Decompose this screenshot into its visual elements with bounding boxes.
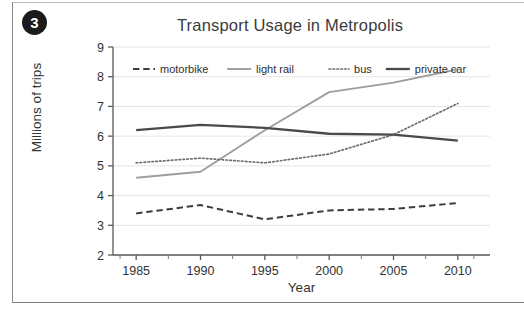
x-axis-tick-label: 1985: [122, 264, 150, 278]
y-axis-tick-label: 5: [97, 159, 104, 173]
series-line-motorbike: [136, 203, 458, 219]
x-axis-tick-label: 2000: [315, 264, 343, 278]
y-axis-tick-label: 2: [97, 249, 104, 263]
x-axis-tick-label: 1990: [187, 264, 215, 278]
series-line-light-rail: [136, 69, 458, 177]
series-line-bus: [136, 103, 458, 162]
y-axis-tick-label: 7: [97, 100, 104, 114]
y-axis-tick-label: 6: [97, 130, 104, 144]
legend-label-private-car: private car: [415, 63, 467, 75]
x-axis-tick-label: 1995: [251, 264, 279, 278]
x-axis-tick-label: 2005: [380, 264, 408, 278]
legend-label-motorbike: motorbike: [160, 63, 208, 75]
legend-label-light-rail: light rail: [256, 63, 294, 75]
y-axis-tick-label: 8: [97, 70, 104, 84]
x-axis-tick-label: 2010: [444, 264, 472, 278]
y-axis-tick-label: 9: [97, 41, 104, 55]
y-axis-tick-label: 4: [97, 189, 104, 203]
y-axis-tick-label: 3: [97, 219, 104, 233]
legend-label-bus: bus: [354, 63, 372, 75]
